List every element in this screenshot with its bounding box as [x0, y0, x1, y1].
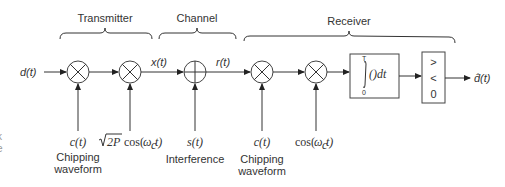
rx-chip-caption-line1: Chipping	[240, 153, 283, 165]
decision-block: > < 0	[422, 52, 445, 103]
svg-text:<: <	[430, 72, 436, 84]
dsss-block-diagram: k e Transmitter Channel Receiver d(t) x(…	[0, 0, 505, 187]
tx-chip-caption-line1: Chipping	[56, 151, 99, 163]
svg-text:t): t)	[155, 135, 162, 149]
tx-carrier-multiplier	[119, 61, 141, 83]
input-signal-label: d(t)	[20, 66, 37, 78]
svg-text:T: T	[362, 55, 367, 62]
channel-adder	[184, 61, 206, 83]
svg-text:t): t)	[326, 135, 333, 149]
integrator-block: T 0 ()dt	[350, 54, 399, 98]
svg-text:()dt: ()dt	[369, 67, 387, 81]
rx-carrier-multiplier	[305, 61, 327, 83]
rx-chip-multiplier	[251, 61, 273, 83]
transmitted-signal-label: x(t)	[150, 56, 167, 68]
receiver-brace	[244, 31, 455, 43]
tx-chip-symbol: c(t)	[70, 135, 87, 149]
svg-text:0: 0	[362, 89, 366, 96]
channel-brace	[159, 28, 236, 39]
interference-caption: Interference	[166, 153, 225, 165]
svg-text:cos(: cos(	[124, 135, 144, 149]
receiver-label: Receiver	[327, 15, 371, 27]
transmitter-label: Transmitter	[77, 12, 133, 24]
rx-carrier-label: cos( ω c t)	[295, 135, 333, 152]
edge-fragment: e	[0, 143, 3, 154]
svg-text:2P: 2P	[107, 135, 121, 149]
tx-carrier-label: 2P cos( ω c t)	[99, 134, 162, 152]
tx-chip-caption-line2: waveform	[53, 163, 102, 175]
received-signal-label: r(t)	[216, 56, 230, 68]
svg-text:0: 0	[430, 88, 436, 100]
transmitter-brace	[60, 28, 152, 39]
svg-text:cos(: cos(	[295, 135, 315, 149]
svg-text:>: >	[430, 56, 436, 68]
channel-label: Channel	[177, 12, 218, 24]
output-signal-label: d̂(t)	[474, 72, 491, 84]
tx-chip-multiplier	[67, 61, 89, 83]
rx-chip-symbol: c(t)	[254, 135, 271, 149]
edge-fragment: k	[0, 131, 3, 142]
interference-symbol: s(t)	[187, 135, 203, 149]
rx-chip-caption-line2: waveform	[237, 165, 286, 177]
